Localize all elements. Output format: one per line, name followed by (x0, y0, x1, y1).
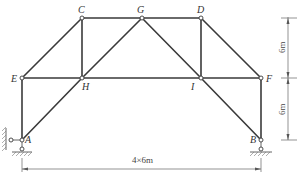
label-H: H (81, 81, 90, 92)
label-C: C (78, 4, 85, 15)
label-A: A (24, 134, 32, 145)
joint-D (199, 16, 203, 20)
member-EC (22, 18, 82, 78)
joint-H (80, 76, 84, 80)
member-GI (142, 18, 201, 78)
joint-C (80, 16, 84, 20)
joint-B (259, 138, 263, 142)
truss-diagram: C G D E H I F A B 4×6m 6m 6m (0, 0, 303, 181)
member-AH (22, 78, 82, 140)
label-I: I (190, 81, 195, 92)
member-DF (201, 18, 261, 78)
joint-G (140, 16, 144, 20)
joint-I (199, 76, 203, 80)
dimension-horizontal: 4×6m (22, 155, 261, 172)
label-D: D (196, 4, 205, 15)
node-labels: C G D E H I F A B (10, 4, 273, 145)
joint-E (20, 76, 24, 80)
dimension-vertical: 6m 6m (277, 17, 297, 140)
label-F: F (265, 73, 273, 84)
label-E: E (10, 73, 17, 84)
joint-A (20, 138, 24, 142)
truss-joints (20, 16, 263, 142)
member-HG (82, 18, 142, 78)
truss-members (22, 18, 261, 140)
label-B: B (250, 134, 256, 145)
label-G: G (137, 4, 144, 15)
dimension-vertical-bottom-label: 6m (277, 103, 287, 115)
member-IB (201, 78, 261, 140)
dimension-horizontal-label: 4×6m (132, 155, 153, 165)
dimension-vertical-top-label: 6m (277, 41, 287, 53)
joint-F (259, 76, 263, 80)
